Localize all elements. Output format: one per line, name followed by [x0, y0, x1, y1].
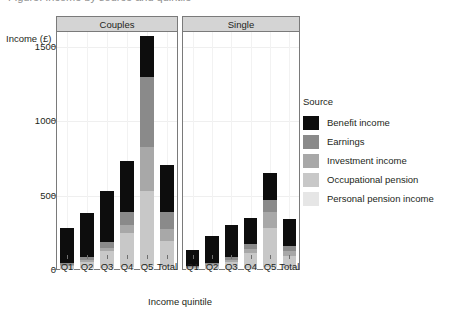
legend: Source Benefit incomeEarningsInvestment …: [303, 96, 448, 208]
legend-swatch: [303, 192, 319, 206]
bar-segment: [100, 191, 114, 242]
gridline-horizontal: [183, 196, 299, 197]
legend-swatch: [303, 154, 319, 168]
legend-item[interactable]: Investment income: [303, 151, 448, 170]
x-tick-mark: [87, 255, 88, 259]
legend-item-label: Occupational pension: [327, 174, 418, 185]
bar-couples-q5[interactable]: [140, 36, 154, 270]
bar-segment: [283, 219, 297, 246]
bar-segment: [263, 173, 277, 201]
legend-item[interactable]: Earnings: [303, 132, 448, 151]
x-tick-mark: [289, 255, 290, 259]
legend-item[interactable]: Personal pension income: [303, 189, 448, 208]
y-tick-label: 1000: [22, 115, 56, 126]
panel-single-title: Single: [183, 17, 299, 32]
x-tick-mark: [147, 255, 148, 259]
legend-item-label: Benefit income: [327, 117, 390, 128]
gridline-horizontal: [57, 121, 177, 122]
bar-segment: [120, 212, 134, 225]
bar-segment: [244, 218, 258, 244]
x-tick-mark: [270, 255, 271, 259]
panel-couples: Couples: [56, 16, 178, 270]
x-tick-mark: [167, 255, 168, 259]
plot-area-single: [183, 32, 299, 270]
legend-item-label: Personal pension income: [327, 193, 434, 204]
x-axis-label: Income quintile: [60, 296, 300, 307]
bar-segment: [160, 165, 174, 212]
legend-item-label: Earnings: [327, 136, 365, 147]
bar-segment: [120, 225, 134, 233]
bar-segment: [140, 147, 154, 191]
x-tick-mark: [193, 255, 194, 259]
x-tick-mark: [107, 255, 108, 259]
legend-title: Source: [303, 96, 448, 107]
gridline-vertical: [212, 32, 213, 270]
bar-segment: [263, 212, 277, 228]
x-tick-label: Q1: [186, 261, 199, 272]
x-tick-label: Q4: [121, 261, 134, 272]
x-tick-mark: [231, 255, 232, 259]
gridline-vertical: [193, 32, 194, 270]
bar-segment: [140, 77, 154, 147]
x-tick-mark: [251, 255, 252, 259]
y-tick-label: 0: [22, 264, 56, 275]
x-tick-label: Q2: [81, 261, 94, 272]
gridline-horizontal: [57, 47, 177, 48]
bar-segment: [160, 212, 174, 229]
legend-swatch: [303, 135, 319, 149]
x-tick-label: Total: [157, 261, 177, 272]
panel-single: Single: [182, 16, 300, 270]
gridline-horizontal: [183, 47, 299, 48]
legend-item-label: Investment income: [327, 155, 407, 166]
legend-item[interactable]: Benefit income: [303, 113, 448, 132]
y-tick-label: 500: [22, 189, 56, 200]
x-axis-couples: Q1Q2Q3Q4Q5Total: [56, 255, 178, 285]
bar-segment: [160, 229, 174, 241]
legend-swatch: [303, 173, 319, 187]
x-tick-mark: [212, 255, 213, 259]
x-tick-label: Total: [279, 261, 299, 272]
x-tick-mark: [127, 255, 128, 259]
bar-segment: [80, 213, 94, 257]
x-tick-label: Q4: [244, 261, 257, 272]
plot-area-couples: [57, 32, 177, 270]
y-axis: 050010001500: [16, 0, 56, 320]
gridline-horizontal: [57, 196, 177, 197]
x-tick-label: Q5: [141, 261, 154, 272]
x-tick-label: Q2: [206, 261, 219, 272]
y-tick-label: 1500: [22, 40, 56, 51]
bar-segment: [225, 225, 239, 257]
x-tick-mark: [67, 255, 68, 259]
gridline-horizontal: [183, 121, 299, 122]
legend-swatch: [303, 116, 319, 130]
x-tick-label: Q3: [101, 261, 114, 272]
bar-segment: [263, 200, 277, 212]
legend-item[interactable]: Occupational pension: [303, 170, 448, 189]
chart-figure: Figure: Income by source and quintile In…: [0, 0, 450, 320]
x-axis-single: Q1Q2Q3Q4Q5Total: [182, 255, 300, 285]
panel-couples-title: Couples: [57, 17, 177, 32]
bar-segment: [120, 161, 134, 212]
bar-segment: [140, 36, 154, 77]
x-tick-label: Q3: [225, 261, 238, 272]
bar-couples-q4[interactable]: [120, 161, 134, 270]
x-tick-label: Q1: [61, 261, 74, 272]
x-tick-label: Q5: [264, 261, 277, 272]
